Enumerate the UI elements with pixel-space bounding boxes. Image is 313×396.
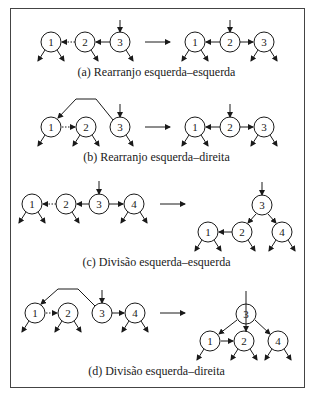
left-child-arrow xyxy=(251,135,258,146)
node-1: 1 xyxy=(25,303,45,323)
svg-text:1: 1 xyxy=(192,36,198,48)
node-1: 1 xyxy=(41,32,61,52)
svg-text:2: 2 xyxy=(227,36,233,48)
caption-a: (a) Rearranjo esquerda–esquerda xyxy=(0,65,313,80)
left-child-arrow xyxy=(19,212,26,223)
right-child-arrow xyxy=(92,135,99,146)
before-tree: 1234 xyxy=(19,181,147,223)
node-1: 1 xyxy=(198,222,218,242)
node-2: 2 xyxy=(76,117,96,137)
panel-a: 123123 xyxy=(38,20,277,61)
left-child-arrow xyxy=(251,50,258,61)
right-child-arrow xyxy=(201,135,208,146)
node-2: 2 xyxy=(232,222,252,242)
splay-tree-rotations-diagram: 1231231231231234324112343124 xyxy=(0,0,313,396)
right-child-arrow xyxy=(248,240,255,251)
node-4: 4 xyxy=(124,194,144,214)
node-3: 3 xyxy=(254,117,274,137)
right-child-arrow xyxy=(72,212,79,223)
left-child-arrow xyxy=(269,240,276,251)
svg-text:3: 3 xyxy=(261,121,267,133)
svg-text:4: 4 xyxy=(132,307,138,319)
pointer-arrow xyxy=(268,214,276,223)
left-child-arrow xyxy=(55,321,62,332)
left-child-arrow xyxy=(182,135,189,146)
left-child-arrow xyxy=(38,135,45,146)
svg-text:1: 1 xyxy=(48,121,54,133)
right-child-arrow xyxy=(57,50,64,61)
node-2: 2 xyxy=(234,331,254,351)
after-tree: 123 xyxy=(182,104,277,146)
svg-text:2: 2 xyxy=(227,121,233,133)
right-child-arrow xyxy=(126,135,133,146)
node-3: 3 xyxy=(252,195,272,215)
right-child-arrow xyxy=(74,321,81,332)
caption-d: (d) Divisão esquerda–direita xyxy=(0,364,313,379)
node-3: 3 xyxy=(254,32,274,52)
right-child-arrow xyxy=(201,50,208,61)
svg-text:3: 3 xyxy=(259,199,265,211)
before-tree: 1234 xyxy=(22,289,148,332)
svg-text:1: 1 xyxy=(207,335,213,347)
svg-text:2: 2 xyxy=(239,226,245,238)
svg-text:3: 3 xyxy=(261,36,267,48)
svg-text:4: 4 xyxy=(131,198,137,210)
panel-d: 12343124 xyxy=(22,289,291,360)
left-child-arrow xyxy=(197,349,204,360)
left-child-arrow xyxy=(121,212,128,223)
before-tree: 123 xyxy=(38,20,133,61)
svg-text:4: 4 xyxy=(275,335,281,347)
svg-text:1: 1 xyxy=(48,36,54,48)
svg-text:2: 2 xyxy=(241,335,247,347)
svg-text:3: 3 xyxy=(96,198,102,210)
right-child-arrow xyxy=(284,349,291,360)
node-2: 2 xyxy=(75,32,95,52)
node-1: 1 xyxy=(185,32,205,52)
node-2: 2 xyxy=(56,194,76,214)
left-child-arrow xyxy=(195,240,202,251)
right-child-arrow xyxy=(288,240,295,251)
svg-text:3: 3 xyxy=(117,121,123,133)
svg-text:1: 1 xyxy=(192,121,198,133)
svg-text:2: 2 xyxy=(63,198,69,210)
svg-text:2: 2 xyxy=(65,307,71,319)
caption-b: (b) Rearranjo esquerda–direita xyxy=(0,150,313,165)
left-child-arrow xyxy=(38,50,45,61)
left-child-arrow xyxy=(122,321,129,332)
node-1: 1 xyxy=(185,117,205,137)
right-child-arrow xyxy=(91,50,98,61)
svg-text:2: 2 xyxy=(83,121,89,133)
svg-text:3: 3 xyxy=(99,307,105,319)
node-4: 4 xyxy=(272,222,292,242)
panel-c: 12343241 xyxy=(19,181,295,251)
right-child-arrow xyxy=(250,349,257,360)
before-tree: 123 xyxy=(38,99,133,146)
svg-text:1: 1 xyxy=(29,198,35,210)
pointer-arrow xyxy=(248,214,256,223)
left-child-arrow xyxy=(231,349,238,360)
node-1: 1 xyxy=(22,194,42,214)
left-child-arrow xyxy=(182,50,189,61)
node-1: 1 xyxy=(200,331,220,351)
pointer-arrow xyxy=(219,320,237,334)
right-child-arrow xyxy=(140,212,147,223)
pointer-arrow xyxy=(255,320,270,334)
node-2: 2 xyxy=(220,117,240,137)
left-child-arrow xyxy=(265,349,272,360)
panel-b: 123123 xyxy=(38,99,277,146)
node-1: 1 xyxy=(41,117,61,137)
right-child-arrow xyxy=(126,50,133,61)
left-child-arrow xyxy=(22,321,29,332)
node-2: 2 xyxy=(220,32,240,52)
right-child-arrow xyxy=(141,321,148,332)
svg-text:3: 3 xyxy=(117,36,123,48)
caption-c: (c) Divisão esquerda–esquerda xyxy=(0,255,313,270)
node-4: 4 xyxy=(125,303,145,323)
right-child-arrow xyxy=(270,135,277,146)
svg-text:1: 1 xyxy=(32,307,38,319)
node-3: 3 xyxy=(89,194,109,214)
left-child-arrow xyxy=(73,135,80,146)
right-child-arrow xyxy=(270,50,277,61)
svg-text:1: 1 xyxy=(205,226,211,238)
right-child-arrow xyxy=(214,240,221,251)
